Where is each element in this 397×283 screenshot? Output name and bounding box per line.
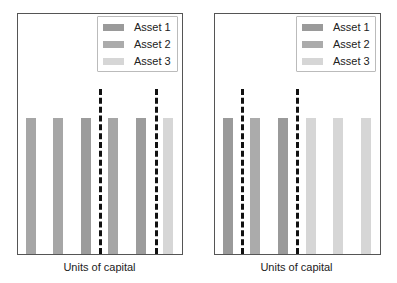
right-dashed-line-1 bbox=[241, 89, 244, 254]
legend-entry-asset-3: Asset 3 bbox=[302, 54, 370, 68]
legend-label: Asset 2 bbox=[333, 38, 370, 50]
right-dashed-line-2 bbox=[296, 89, 299, 254]
right-chart-panel: Asset 1 Asset 2 Asset 3 bbox=[214, 13, 381, 255]
left-bar-4 bbox=[108, 118, 118, 254]
asset-2-swatch bbox=[103, 41, 124, 48]
right-bar-2 bbox=[250, 118, 260, 254]
right-legend: Asset 1 Asset 2 Asset 3 bbox=[296, 16, 376, 72]
asset-2-swatch bbox=[302, 41, 323, 48]
legend-entry-asset-2: Asset 2 bbox=[302, 37, 370, 51]
left-x-axis-label: Units of capital bbox=[17, 261, 182, 273]
right-bar-6 bbox=[361, 118, 371, 254]
right-bar-1 bbox=[223, 118, 233, 254]
legend-label: Asset 3 bbox=[333, 55, 370, 67]
legend-label: Asset 1 bbox=[333, 21, 370, 33]
legend-label: Asset 2 bbox=[134, 38, 171, 50]
left-bar-2 bbox=[53, 118, 63, 254]
left-bar-3 bbox=[81, 118, 91, 254]
left-chart-panel: Asset 1 Asset 2 Asset 3 bbox=[17, 13, 183, 255]
asset-1-swatch bbox=[103, 24, 124, 31]
legend-entry-asset-1: Asset 1 bbox=[103, 20, 171, 34]
legend-label: Asset 3 bbox=[134, 55, 171, 67]
asset-1-swatch bbox=[302, 24, 323, 31]
asset-3-swatch bbox=[302, 58, 323, 65]
left-legend: Asset 1 Asset 2 Asset 3 bbox=[97, 16, 178, 72]
left-dashed-line-2 bbox=[155, 89, 158, 254]
left-dashed-line-1 bbox=[99, 89, 102, 254]
right-bar-4 bbox=[306, 118, 316, 254]
right-bar-5 bbox=[333, 118, 343, 254]
legend-entry-asset-2: Asset 2 bbox=[103, 37, 171, 51]
left-bar-1 bbox=[26, 118, 36, 254]
legend-label: Asset 1 bbox=[134, 21, 171, 33]
legend-entry-asset-3: Asset 3 bbox=[103, 54, 171, 68]
right-x-axis-label: Units of capital bbox=[214, 261, 379, 273]
left-bar-5 bbox=[136, 118, 146, 254]
right-bar-3 bbox=[278, 118, 288, 254]
left-bar-6 bbox=[163, 118, 173, 254]
asset-3-swatch bbox=[103, 58, 124, 65]
legend-entry-asset-1: Asset 1 bbox=[302, 20, 370, 34]
